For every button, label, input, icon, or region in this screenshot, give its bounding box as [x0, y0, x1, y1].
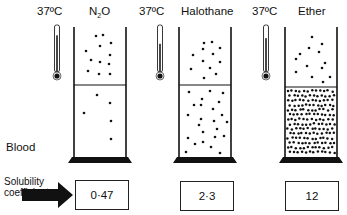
blood-molecule-dot [317, 113, 320, 116]
gas-molecule-dot [98, 73, 101, 76]
solubility-value: 0·47 [90, 189, 113, 201]
blood-molecule-dot [201, 98, 204, 101]
blood-molecule-dot [326, 89, 329, 92]
gas-label-n2o: N2O [89, 5, 110, 17]
gas-molecule-dot [192, 54, 195, 57]
blood-molecule-dot [313, 94, 316, 97]
blood-molecule-dot [333, 131, 336, 134]
blood-molecule-dot [291, 109, 294, 112]
blood-molecule-dot [321, 123, 324, 126]
blood-molecule-dot [293, 151, 296, 154]
blood-molecule-dot [311, 118, 314, 121]
blood-molecule-dot [322, 119, 325, 122]
blood-molecule-dot [210, 146, 213, 149]
blood-molecule-dot [321, 94, 324, 97]
gas-subscript: 2 [97, 12, 101, 19]
blood-molecule-dot [202, 131, 205, 134]
blood-molecule-dot [305, 151, 308, 154]
blood-molecule-dot [314, 127, 317, 130]
blood-molecule-dot [319, 100, 322, 103]
solubility-label-line2: coefficient [4, 187, 49, 198]
blood-molecule-dot [290, 146, 293, 149]
blood-molecule-dot [331, 91, 334, 94]
thermometer-mercury [265, 38, 267, 72]
blood-molecule-dot [305, 124, 308, 127]
blood-molecule-dot [289, 123, 292, 126]
blood-molecule-dot [299, 99, 302, 102]
blood-molecule-dot [295, 147, 298, 150]
blood-molecule-dot [297, 142, 300, 145]
gas-molecule-dot [209, 67, 212, 70]
blood-molecule-dot [323, 90, 326, 93]
blood-molecule-dot [295, 90, 298, 93]
blood-molecule-dot [308, 113, 311, 116]
blood-label: Blood [6, 141, 35, 153]
gas-label-halothane: Halothane [181, 5, 233, 17]
gas-molecule-dot [295, 71, 298, 74]
blood-molecule-dot [306, 137, 309, 140]
thermometer-bulb [263, 73, 268, 78]
blood-molecule-dot [110, 120, 113, 123]
blood-molecule-dot [294, 119, 297, 122]
cylinder-base [279, 157, 343, 163]
thermometer-bulb [157, 73, 162, 78]
blood-molecule-dot [300, 132, 303, 135]
blood-molecule-dot [298, 90, 301, 93]
blood-molecule-dot [294, 99, 297, 102]
blood-molecule-dot [322, 128, 325, 131]
blood-molecule-dot [314, 109, 317, 112]
blood-molecule-dot [325, 123, 328, 126]
blood-molecule-dot [293, 132, 296, 135]
blood-molecule-dot [305, 132, 308, 135]
blood-molecule-dot [306, 127, 309, 129]
blood-molecule-dot [332, 114, 335, 117]
blood-molecule-dot [322, 136, 325, 139]
gas-molecule-dot [109, 73, 112, 76]
blood-molecule-dot [194, 143, 197, 146]
blood-molecule-dot [333, 142, 336, 145]
gas-molecule-dot [311, 76, 314, 79]
blood-molecule-dot [320, 105, 323, 108]
blood-molecule-dot [321, 113, 324, 116]
blood-molecule-dot [286, 127, 289, 130]
blood-molecule-dot [319, 89, 322, 92]
gas-molecule-dot [202, 48, 205, 51]
gas-molecule-dot [329, 76, 332, 79]
blood-molecule-dot [305, 103, 308, 106]
solubility-value-n2o: 0·47 [75, 180, 129, 210]
blood-molecule-dot [291, 99, 294, 102]
blood-molecule-dot [318, 123, 321, 126]
blood-molecule-dot [296, 151, 299, 154]
gas-molecule-dot [109, 54, 112, 57]
gas-molecule-dot [203, 77, 206, 80]
blood-molecule-dot [110, 138, 113, 141]
blood-molecule-dot [332, 105, 335, 108]
blood-molecule-dot [219, 152, 222, 155]
blood-molecule-dot [327, 147, 330, 150]
blood-molecule-dot [327, 109, 330, 112]
blood-molecule-dot [324, 151, 327, 154]
blood-molecule-dot [326, 137, 329, 140]
blood-molecule-dot [301, 104, 304, 107]
blood-molecule-dot [187, 114, 190, 117]
gas-molecule-dot [203, 42, 206, 45]
blood-molecule-dot [287, 99, 290, 102]
blood-molecule-dot [302, 128, 305, 131]
gas-molecule-dot [85, 50, 88, 53]
gas-molecule-dot [308, 47, 311, 50]
blood-molecule-dot [329, 142, 332, 145]
gas-molecule-dot [321, 67, 324, 70]
temperature-label-ether: 37ºC [252, 5, 277, 17]
blood-molecule-dot [322, 108, 325, 111]
blood-molecule-dot [308, 104, 311, 107]
blood-molecule-dot [331, 118, 334, 121]
blood-molecule-dot [312, 131, 315, 134]
blood-molecule-dot [301, 123, 304, 126]
blood-molecule-dot [287, 109, 290, 112]
blood-molecule-dot [311, 109, 314, 112]
blood-molecule-dot [294, 109, 297, 112]
blood-molecule-dot [286, 137, 289, 140]
blood-molecule-dot [317, 104, 320, 107]
blood-molecule-dot [303, 137, 306, 140]
thermometer-mercury [159, 44, 161, 72]
